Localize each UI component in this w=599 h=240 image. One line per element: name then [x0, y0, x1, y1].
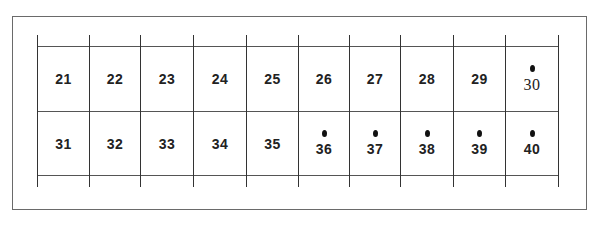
cell-number: 37 — [367, 141, 384, 157]
grid-cell: 29 — [454, 47, 505, 111]
grid-cell: 22 — [90, 47, 140, 111]
grid-cell: 30 — [506, 47, 558, 111]
cell-number: 39 — [471, 141, 488, 157]
cell-number: 36 — [316, 141, 333, 157]
dot-marker-icon — [477, 130, 482, 137]
cell-number: 28 — [419, 71, 436, 87]
grid-cell: 38 — [401, 112, 453, 175]
grid-cell: 31 — [38, 112, 89, 175]
grid-vertical-line — [558, 35, 559, 187]
grid-cell: 32 — [90, 112, 140, 175]
grid-cell: 24 — [194, 47, 246, 111]
cell-number: 38 — [419, 141, 436, 157]
grid-cell: 28 — [401, 47, 453, 111]
grid-cell: 33 — [141, 112, 193, 175]
dot-marker-icon — [530, 65, 535, 72]
cell-number: 33 — [159, 136, 176, 152]
cell-number: 25 — [264, 71, 281, 87]
cell-number: 30 — [524, 76, 541, 94]
grid-cell: 26 — [299, 47, 349, 111]
grid-cell: 34 — [194, 112, 246, 175]
dot-marker-icon — [425, 130, 430, 137]
cell-number: 22 — [107, 71, 124, 87]
cell-number: 32 — [107, 136, 124, 152]
cell-number: 23 — [159, 71, 176, 87]
cell-number: 29 — [471, 71, 488, 87]
cell-number: 34 — [212, 136, 229, 152]
grid-cell: 35 — [247, 112, 298, 175]
cell-number: 26 — [316, 71, 333, 87]
grid-cell: 25 — [247, 47, 298, 111]
cell-number: 24 — [212, 71, 229, 87]
cell-number: 40 — [524, 141, 541, 157]
grid-cell: 37 — [350, 112, 400, 175]
cell-number: 35 — [264, 136, 281, 152]
dot-marker-icon — [322, 130, 327, 137]
cell-number: 27 — [367, 71, 384, 87]
cell-number: 21 — [55, 71, 72, 87]
grid-cell: 39 — [454, 112, 505, 175]
dot-marker-icon — [530, 130, 535, 137]
grid-cell: 23 — [141, 47, 193, 111]
grid-cell: 21 — [38, 47, 89, 111]
dot-marker-icon — [373, 130, 378, 137]
grid-cell: 40 — [506, 112, 558, 175]
cell-number: 31 — [55, 136, 72, 152]
grid-cell: 27 — [350, 47, 400, 111]
grid-cell: 36 — [299, 112, 349, 175]
